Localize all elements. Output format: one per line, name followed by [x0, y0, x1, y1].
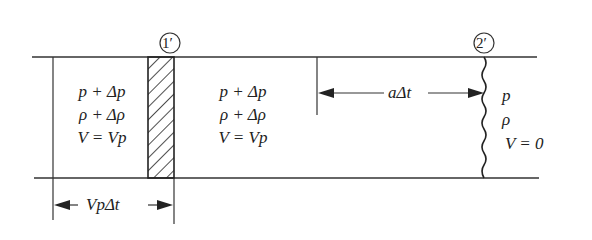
left-region-density: ρ + Δρ [62, 105, 142, 125]
section-marker-1: 1′ [162, 33, 173, 53]
middle-region-velocity: V = Vp [203, 128, 283, 148]
right-region-velocity: V = 0 [505, 134, 544, 154]
left-region-velocity: V = Vp [62, 128, 142, 148]
middle-region-density: ρ + Δρ [203, 105, 283, 125]
arrow-right-icon [157, 200, 173, 210]
wave-front [482, 57, 486, 178]
section-marker-2: 2′ [476, 33, 487, 53]
right-region-density: ρ [502, 110, 510, 130]
right-region-pressure: p [502, 86, 511, 106]
top-dimension-label: aΔt [388, 83, 411, 103]
hatched-fluid-slab [148, 57, 174, 178]
arrow-left-icon [318, 88, 334, 98]
arrow-left-icon [54, 200, 70, 210]
left-region-pressure: p + Δp [62, 82, 142, 102]
middle-region-pressure: p + Δp [203, 82, 283, 102]
bottom-dimension-label: VpΔt [86, 195, 120, 215]
